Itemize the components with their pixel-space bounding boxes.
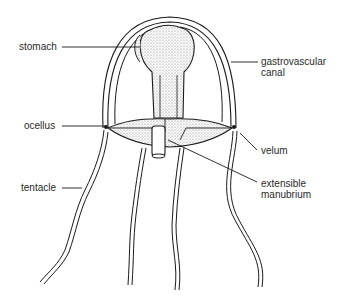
label-gastrovascular-canal-line2: canal [261, 67, 285, 78]
label-extensible-manubrium-line2: manubrium [261, 189, 311, 200]
label-velum: velum [261, 145, 288, 156]
label-stomach: stomach [19, 41, 57, 52]
tentacles [40, 130, 263, 290]
label-tentacle: tentacle [21, 182, 56, 193]
velum-shape [108, 119, 232, 147]
jellyfish-diagram: stomach gastrovascular canal ocellus vel… [0, 0, 341, 306]
ocellus-dot-right [232, 125, 236, 129]
stomach-shape [135, 26, 195, 118]
label-gastrovascular-canal-line1: gastrovascular [261, 56, 326, 67]
label-ocellus: ocellus [24, 120, 55, 131]
label-extensible-manubrium-line1: extensible [261, 178, 306, 189]
manubrium-shape [152, 126, 165, 158]
